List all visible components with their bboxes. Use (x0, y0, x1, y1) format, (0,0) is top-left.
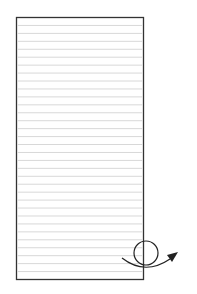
diagram-canvas (0, 0, 197, 294)
